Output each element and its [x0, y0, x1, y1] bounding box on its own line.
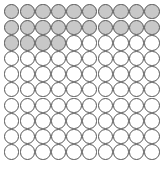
dot-cell [98, 51, 114, 67]
dot-cell [35, 144, 51, 160]
dot-cell [113, 35, 129, 51]
dot-cell [4, 35, 20, 51]
filled-dot [144, 20, 159, 35]
dot-cell [35, 35, 51, 51]
dot-cell [144, 113, 160, 129]
dot-cell [51, 113, 67, 129]
unfilled-dot [66, 82, 81, 97]
unfilled-dot [20, 144, 35, 159]
unfilled-dot [82, 144, 97, 159]
filled-dot [98, 20, 113, 35]
unfilled-dot [144, 51, 159, 66]
dot-cell [35, 113, 51, 129]
unfilled-dot [144, 82, 159, 97]
filled-dot [20, 20, 35, 35]
dot-cell [51, 144, 67, 160]
dot-cell [113, 144, 129, 160]
unfilled-dot [4, 82, 19, 97]
dot-cell [82, 129, 98, 145]
unfilled-dot [4, 98, 19, 113]
unfilled-dot [98, 144, 113, 159]
dot-cell [20, 51, 36, 67]
unfilled-dot [113, 51, 128, 66]
unfilled-dot [35, 82, 50, 97]
unfilled-dot [98, 51, 113, 66]
unfilled-dot [35, 113, 50, 128]
dot-cell [51, 20, 67, 36]
unfilled-dot [51, 144, 66, 159]
dot-cell [129, 98, 145, 114]
dot-cell [66, 4, 82, 20]
filled-dot [66, 4, 81, 19]
dot-cell [20, 35, 36, 51]
filled-dot [51, 4, 66, 19]
dot-cell [51, 35, 67, 51]
filled-dot [98, 4, 113, 19]
unfilled-dot [82, 113, 97, 128]
unfilled-dot [129, 35, 144, 50]
unfilled-dot [35, 129, 50, 144]
dot-cell [4, 66, 20, 82]
dot-cell [98, 98, 114, 114]
dot-cell [82, 82, 98, 98]
unfilled-dot [144, 66, 159, 81]
unfilled-dot [129, 82, 144, 97]
dot-cell [98, 66, 114, 82]
dot-cell [20, 98, 36, 114]
filled-dot [20, 35, 35, 50]
unfilled-dot [20, 82, 35, 97]
unfilled-dot [129, 129, 144, 144]
dot-cell [82, 4, 98, 20]
unfilled-dot [98, 66, 113, 81]
dot-cell [20, 66, 36, 82]
unfilled-dot [20, 98, 35, 113]
dot-cell [144, 82, 160, 98]
filled-dot [66, 20, 81, 35]
unfilled-dot [82, 35, 97, 50]
unfilled-dot [66, 51, 81, 66]
unfilled-dot [51, 66, 66, 81]
unfilled-dot [51, 98, 66, 113]
dot-cell [129, 82, 145, 98]
unfilled-dot [98, 82, 113, 97]
filled-dot [51, 35, 66, 50]
dot-cell [20, 20, 36, 36]
dot-cell [144, 35, 160, 51]
unfilled-dot [4, 144, 19, 159]
dot-cell [144, 20, 160, 36]
filled-dot [4, 35, 19, 50]
dot-cell [113, 4, 129, 20]
dot-cell [82, 144, 98, 160]
unfilled-dot [98, 113, 113, 128]
unfilled-dot [129, 51, 144, 66]
unfilled-dot [4, 51, 19, 66]
filled-dot [144, 4, 159, 19]
dot-cell [20, 144, 36, 160]
filled-dot [51, 20, 66, 35]
filled-dot [113, 4, 128, 19]
unfilled-dot [98, 98, 113, 113]
unfilled-dot [4, 66, 19, 81]
dot-cell [113, 82, 129, 98]
dot-cell [66, 82, 82, 98]
dot-cell [98, 129, 114, 145]
unfilled-dot [66, 98, 81, 113]
dot-cell [144, 4, 160, 20]
filled-dot [4, 20, 19, 35]
dot-cell [129, 66, 145, 82]
dot-cell [98, 35, 114, 51]
dot-cell [144, 129, 160, 145]
dot-cell [129, 4, 145, 20]
unfilled-dot [98, 129, 113, 144]
dot-cell [82, 98, 98, 114]
dot-cell [98, 4, 114, 20]
filled-dot [20, 4, 35, 19]
unfilled-dot [4, 129, 19, 144]
dot-cell [35, 51, 51, 67]
dot-cell [129, 113, 145, 129]
dot-cell [51, 51, 67, 67]
unfilled-dot [113, 35, 128, 50]
dot-cell [98, 20, 114, 36]
dot-cell [66, 129, 82, 145]
unfilled-dot [144, 35, 159, 50]
